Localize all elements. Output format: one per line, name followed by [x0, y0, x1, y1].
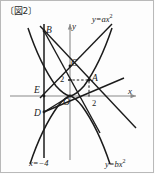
x-axis-label: x — [128, 86, 132, 96]
line-b-to-a — [40, 26, 136, 128]
point-label-a: A — [92, 73, 98, 83]
point-marker-d — [43, 111, 46, 114]
curve-label-upward-parabola-exponent: 2 — [110, 13, 113, 19]
point-marker-b — [43, 30, 46, 33]
point-label-e: E — [34, 85, 40, 95]
curve-label-upward-parabola-text: y=ax — [92, 14, 110, 24]
point-label-b: B — [46, 25, 52, 35]
measure-vertical-2: 2 — [60, 74, 64, 84]
curve-label-downward-parabola: y=bx2 — [105, 158, 126, 169]
point-label-o: O — [63, 97, 70, 107]
curve-label-downward-parabola-text: y=bx — [105, 159, 123, 169]
line-d-to-a-extended — [44, 78, 124, 112]
point-marker-a — [88, 79, 91, 82]
measure-horizontal-2: 2 — [92, 98, 96, 108]
figure-container: 〔図2〕 — [0, 0, 155, 174]
curve-label-upward-parabola: y=ax2 — [92, 13, 113, 24]
curve-label-vertical-line: x=−4 — [29, 158, 49, 168]
point-label-d: D — [34, 108, 41, 118]
curve-label-downward-parabola-exponent: 2 — [123, 158, 126, 164]
point-marker-e — [43, 95, 46, 98]
point-label-c: C — [71, 58, 77, 68]
y-axis-label: y — [72, 21, 76, 31]
